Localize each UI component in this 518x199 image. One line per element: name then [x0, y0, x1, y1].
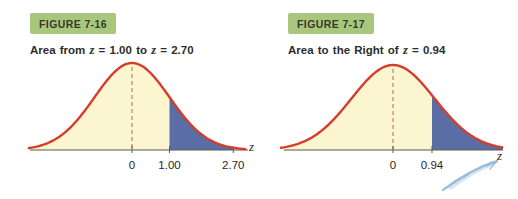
z-value: 1.00: [110, 44, 132, 56]
z-variable: z: [403, 43, 408, 57]
feather-swoosh-icon: [438, 153, 502, 195]
z-value: 2.70: [171, 44, 193, 56]
figure-label-7-17: FIGURE 7-17: [288, 13, 374, 34]
tick-label: 1.00: [158, 159, 180, 171]
tick-label: 0: [129, 159, 135, 171]
equals-sign: =: [412, 44, 419, 56]
caption-text: to: [136, 44, 147, 56]
caption-text: Area to the Right of: [288, 44, 399, 56]
caption-text: Area from: [30, 44, 85, 56]
figure-7-16-curve: 01.002.70z: [23, 63, 254, 171]
figure-caption-7-17: Area to the Right of z = 0.94: [288, 43, 445, 58]
tick-label: 2.70: [222, 159, 244, 171]
z-variable: z: [90, 43, 95, 57]
figure-caption-7-16: Area from z = 1.00 to z = 2.70: [30, 43, 194, 58]
equals-sign: =: [160, 44, 167, 56]
equals-sign: =: [99, 44, 106, 56]
z-axis-label: z: [248, 139, 254, 154]
tick-label: 0: [390, 159, 396, 171]
z-variable: z: [151, 43, 156, 57]
figure-label-7-16: FIGURE 7-16: [30, 13, 116, 34]
z-value: 0.94: [423, 44, 445, 56]
textbook-figures-page: 01.002.70z 00.94z FIGURE 7-16 Area from …: [0, 0, 518, 199]
